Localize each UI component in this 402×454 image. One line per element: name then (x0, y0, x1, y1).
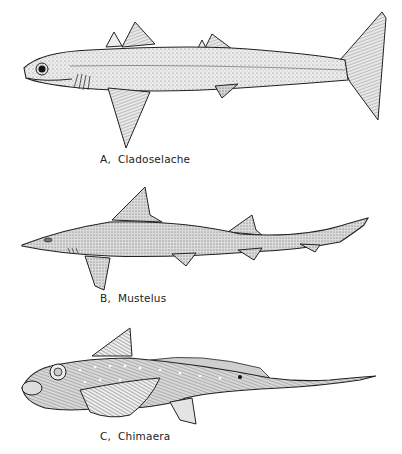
caption-c-letter: C, (100, 430, 111, 442)
caption-b-letter: B, (100, 292, 111, 304)
caption-b-name: Mustelus (118, 292, 166, 304)
caption-c-name: Chimaera (118, 430, 170, 442)
panel-c-chimaera: C,Chimaera (0, 320, 402, 454)
mustelus-illustration (0, 180, 402, 315)
cladoselache-illustration (0, 0, 402, 175)
caption-a: A,Cladoselache (100, 153, 190, 165)
chimaera-illustration (0, 320, 402, 454)
caption-c: C,Chimaera (100, 430, 170, 442)
caption-a-name: Cladoselache (118, 153, 190, 165)
caption-a-letter: A, (100, 153, 111, 165)
panel-b-mustelus: B,Mustelus (0, 180, 402, 315)
caption-b: B,Mustelus (100, 292, 166, 304)
panel-a-cladoselache: A,Cladoselache (0, 0, 402, 175)
